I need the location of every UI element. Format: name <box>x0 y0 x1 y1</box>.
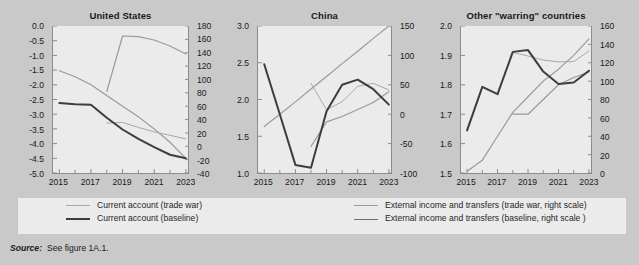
axis-tick-label: 2.0 <box>440 22 452 31</box>
axis-tick-label: 160 <box>197 35 211 44</box>
figure-panel-group: United States 0.0-0.5-1.0-1.5-2.0-2.5-3.… <box>0 0 639 265</box>
axis-tick-label: -4.0 <box>29 140 44 149</box>
axis-tick-label: 80 <box>600 96 610 105</box>
x-axis-ticks-other: 20152017201920212023 <box>460 178 592 192</box>
plot-svg-china <box>258 26 392 173</box>
axis-tick-label: 20 <box>600 151 610 160</box>
source-text: See figure 1A.1. <box>47 243 109 253</box>
legend-label: External income and transfers (trade war… <box>385 201 587 210</box>
axis-tick-label: 40 <box>600 133 610 142</box>
axis-tick-label: -4.5 <box>29 155 44 164</box>
axis-tick-label: -50 <box>400 140 412 149</box>
plot-area-us <box>52 26 189 174</box>
axis-tick-label: -5.0 <box>29 170 44 179</box>
chart-title: United States <box>18 10 223 21</box>
axis-tick-label: 150 <box>400 22 414 31</box>
axis-tick-label: 120 <box>600 59 614 68</box>
plot-svg-us <box>53 26 189 173</box>
axis-tick-label: -2.0 <box>29 81 44 90</box>
axis-tick-label: 3.0 <box>237 22 249 31</box>
plot-area-china <box>257 26 392 174</box>
series-line <box>59 71 186 159</box>
axis-tick-label: 2019 <box>113 178 132 187</box>
axis-tick-label: 1.6 <box>440 140 452 149</box>
axis-tick-label: 1.8 <box>440 81 452 90</box>
axis-tick-label: 1.7 <box>440 111 452 120</box>
axis-tick-label: 2017 <box>81 178 100 187</box>
legend-swatch <box>354 205 378 206</box>
axis-tick-label: 0 <box>197 143 202 152</box>
axis-tick-label: 140 <box>197 49 211 58</box>
series-line <box>311 83 389 109</box>
axis-tick-label: 2021 <box>348 178 367 187</box>
legend-label: Current account (baseline) <box>97 214 198 223</box>
axis-tick-label: 0 <box>400 111 405 120</box>
axis-tick-label: -20 <box>197 156 209 165</box>
x-axis-ticks-china: 20152017201920212023 <box>257 178 392 192</box>
series-line <box>264 64 389 168</box>
axis-tick-label: 0.0 <box>32 22 44 31</box>
axis-tick-label: 1.5 <box>237 133 249 142</box>
series-line <box>467 50 589 130</box>
legend-swatch <box>354 219 378 220</box>
axis-tick-label: -0.5 <box>29 37 44 46</box>
axis-tick-label: 1.9 <box>440 51 452 60</box>
axis-tick-label: 100 <box>400 51 414 60</box>
legend-label: Current account (trade war) <box>97 201 202 210</box>
left-axis-ticks-other: 2.01.91.81.71.61.5 <box>426 26 456 174</box>
legend-grid: Current account (trade war)External inco… <box>18 201 626 224</box>
axis-tick-label: -1.0 <box>29 51 44 60</box>
axis-tick-label: 2.5 <box>237 59 249 68</box>
axis-tick-label: 50 <box>400 81 410 90</box>
axis-tick-label: -3.5 <box>29 125 44 134</box>
series-line <box>311 92 389 147</box>
legend-swatch <box>66 205 90 206</box>
axis-tick-label: 160 <box>600 22 614 31</box>
source-label: Source: <box>10 243 42 253</box>
axis-tick-label: 2015 <box>457 178 476 187</box>
axis-tick-label: 20 <box>197 129 207 138</box>
series-line <box>59 103 186 158</box>
axis-tick-label: -100 <box>400 170 417 179</box>
axis-tick-label: 2015 <box>49 178 68 187</box>
axis-tick-label: 2023 <box>579 178 598 187</box>
series-line <box>467 39 589 171</box>
chart-legend: Current account (trade war)External inco… <box>18 198 626 234</box>
chart-title: Other "warring" countries <box>426 10 626 21</box>
axis-tick-label: 120 <box>197 62 211 71</box>
legend-swatch <box>66 218 90 220</box>
right-axis-ticks-other: 160140120100806040200 <box>596 26 626 174</box>
legend-line-icon <box>66 205 90 206</box>
axis-tick-label: -40 <box>197 170 209 179</box>
axis-tick-label: 100 <box>600 77 614 86</box>
legend-line-icon <box>354 219 378 220</box>
axis-tick-label: 140 <box>600 40 614 49</box>
axis-tick-label: 2019 <box>518 178 537 187</box>
axis-tick-label: 2017 <box>285 178 304 187</box>
axis-tick-label: 1.0 <box>237 170 249 179</box>
legend-label: External income and transfers (baseline,… <box>385 214 586 223</box>
series-line <box>513 51 589 62</box>
legend-item: External income and transfers (trade war… <box>306 201 626 210</box>
chart-title: China <box>223 10 426 21</box>
chart-panel-other-warring-countries: Other "warring" countries 2.01.91.81.71.… <box>426 8 626 198</box>
axis-tick-label: 2015 <box>254 178 273 187</box>
axis-tick-label: -3.0 <box>29 111 44 120</box>
axis-tick-label: -1.5 <box>29 66 44 75</box>
series-line <box>107 122 186 138</box>
x-axis-ticks-us: 20152017201920212023 <box>52 178 189 192</box>
chart-panel-united-states: United States 0.0-0.5-1.0-1.5-2.0-2.5-3.… <box>18 8 223 198</box>
legend-item: Current account (trade war) <box>18 201 306 210</box>
axis-tick-label: -2.5 <box>29 96 44 105</box>
axis-tick-label: 2021 <box>144 178 163 187</box>
left-axis-ticks-china: 3.02.52.01.51.0 <box>223 26 253 174</box>
axis-tick-label: 2021 <box>549 178 568 187</box>
axis-tick-label: 180 <box>197 22 211 31</box>
axis-tick-label: 1.5 <box>440 170 452 179</box>
right-axis-ticks-us: 180160140120100806040200-20-40 <box>193 26 223 174</box>
right-axis-ticks-china: 150100500-50-100 <box>396 26 426 174</box>
plot-svg-other <box>461 26 592 173</box>
axis-tick-label: 60 <box>197 102 207 111</box>
left-axis-ticks-us: 0.0-0.5-1.0-1.5-2.0-2.5-3.0-3.5-4.0-4.5-… <box>18 26 48 174</box>
chart-panel-china: China 3.02.52.01.51.0 150100500-50-100 2… <box>223 8 426 198</box>
